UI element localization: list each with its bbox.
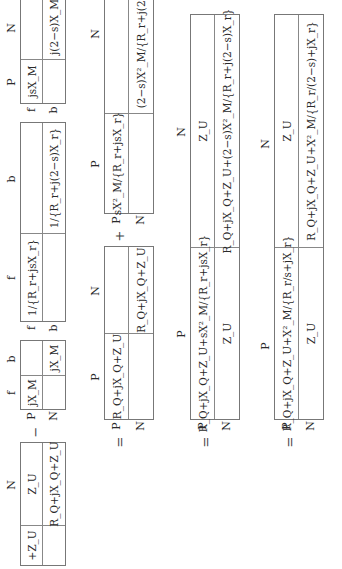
equals-operator: = — [282, 435, 297, 449]
matrix-cell — [105, 0, 129, 113]
row-header-n: N — [128, 214, 152, 226]
col-header-n: N — [89, 248, 102, 334]
col-header-p: P — [259, 260, 272, 432]
matrix-cell: +Z_U — [21, 525, 43, 565]
mutual-matrix: fb PN jX_M jX_M — [2, 340, 66, 422]
matrix-cell: R_Q+jX_Q+Z_U — [129, 247, 153, 333]
rotor-admittance-matrix: fb fb 1/{R_r+jsX_r} 1/{R_r+j(2−s)X_r} — [2, 122, 66, 334]
equation-row-3: = PN PN R_Q+jX_Q+Z_U+sX²_M/{R_r+jsX_r} Z… — [172, 11, 240, 449]
minus-operator: − — [28, 425, 43, 439]
matrix-cell: R_Q+jX_Q+Z_U — [43, 443, 65, 525]
matrix-cell: Z_U — [215, 247, 239, 419]
matrix-cell: Z_U — [191, 15, 215, 247]
row-header-p: P — [104, 214, 128, 226]
row-header-b: b — [42, 322, 64, 334]
col-header-n: N — [175, 16, 188, 248]
matrix-cell — [21, 123, 43, 233]
col-header-b: b — [5, 124, 18, 234]
combined-impedance-matrix: PN PN R_Q+jX_Q+Z_U+sX²_M/{R_r+jsX_r} Z_U… — [172, 14, 240, 432]
equation-row-1: N +Z_U Z_U R_Q+jX_Q+Z_U − fb PN jX_M jX_… — [2, 0, 66, 569]
row-header-p: P — [104, 420, 128, 432]
matrix-cell: Z_U — [275, 15, 299, 247]
rotated-document-page: N +Z_U Z_U R_Q+jX_Q+Z_U − fb PN jX_M jX_… — [0, 0, 342, 569]
matrix-cell: 1/{R_r+jsX_r} — [21, 233, 43, 321]
matrix-cell — [129, 333, 153, 419]
matrix-cell: 1/{R_r+j(2−s)X_r} — [43, 123, 65, 233]
col-header-n: N — [89, 0, 102, 114]
equation-row-4: = PN PN R_Q+jX_Q+Z_U+X²_M/{R_r/s+jX_r} Z… — [256, 11, 324, 449]
rotor-reflected-matrix: PN PN sX²_M/{R_r+jsX_r} (2−s)X²_M/{R_r+j… — [86, 0, 154, 226]
equation-row-2: = PN PN R_Q+jX_Q+Z_U R_Q+jX_Q+Z_U + PN P… — [86, 0, 154, 449]
matrix-cell — [43, 233, 65, 321]
matrix-cell: R_Q+jX_Q+Z_U — [105, 333, 129, 419]
col-header-n: N — [259, 28, 272, 260]
matrix-cell: jX_M — [21, 375, 43, 409]
col-header-b: b — [5, 342, 18, 376]
impedance-matrix: N +Z_U Z_U R_Q+jX_Q+Z_U — [2, 442, 66, 566]
simplified-impedance-matrix: PN PN R_Q+jX_Q+Z_U+X²_M/{R_r/s+jX_r} Z_U… — [256, 14, 324, 432]
slip-mutual-matrix: PN fb jsX_M j(2−s)X_M — [2, 0, 66, 116]
matrix-cell — [105, 247, 129, 333]
matrix-cell: Z_U — [21, 443, 43, 525]
row-header-f: f — [20, 322, 42, 334]
matrix-cell: jX_M — [43, 341, 65, 375]
equals-operator: = — [112, 435, 127, 449]
col-header-n: N — [5, 0, 18, 60]
matrix-cell: R_Q+jX_Q+Z_U+X²_M/{R_r/(2−s)+jX_r} — [299, 15, 323, 247]
matrix-cell: R_Q+jX_Q+Z_U+(2−s)X²_M/{R_r+j(2−s)X_r} — [215, 15, 239, 247]
matrix-cell — [21, 341, 43, 375]
row-header-n: N — [42, 410, 64, 422]
col-header-p: P — [5, 60, 18, 104]
col-header-f: f — [5, 376, 18, 410]
row-header-p: P — [20, 410, 42, 422]
matrix-cell: Z_U — [299, 247, 323, 419]
col-header-p: P — [175, 248, 188, 420]
matrix-cell: jsX_M — [21, 59, 43, 103]
plus-operator: + — [112, 229, 127, 243]
matrix-cell: R_Q+jX_Q+Z_U+sX²_M/{R_r+jsX_r} — [191, 247, 215, 419]
col-header-p: P — [89, 334, 102, 420]
row-header-n: N — [214, 420, 238, 432]
matrix-cell: R_Q+jX_Q+Z_U+X²_M/{R_r/s+jX_r} — [275, 247, 299, 419]
matrix-cell — [21, 0, 43, 59]
col-header-n: N — [5, 444, 18, 526]
matrix-cell — [129, 113, 153, 213]
col-header-p: P — [89, 114, 102, 214]
row-header-b: b — [42, 104, 64, 116]
equals-operator: = — [198, 435, 213, 449]
row-header-n: N — [128, 420, 152, 432]
row-header-f: f — [20, 104, 42, 116]
matrix-cell — [43, 375, 65, 409]
matrix-cell — [43, 59, 65, 103]
matrix-cell — [43, 525, 65, 565]
matrix-cell: (2−s)X²_M/{R_r+j(2−s)X_r} — [129, 0, 153, 113]
row-header-n: N — [298, 420, 322, 432]
matrix-cell: j(2−s)X_M — [43, 0, 65, 59]
col-header-f: f — [5, 234, 18, 322]
stator-matrix: PN PN R_Q+jX_Q+Z_U R_Q+jX_Q+Z_U — [86, 246, 154, 432]
matrix-cell: sX²_M/{R_r+jsX_r} — [105, 113, 129, 213]
